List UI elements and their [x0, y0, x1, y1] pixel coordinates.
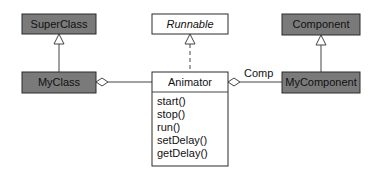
interface-name: Runnable: [166, 18, 213, 30]
class-animator[interactable]: Animator start() stop() run() setDelay()…: [152, 72, 228, 166]
class-name: SuperClass: [31, 18, 88, 30]
class-name: MyComponent: [285, 76, 357, 88]
class-superclass[interactable]: SuperClass: [22, 14, 96, 34]
association-label-comp: Comp: [244, 67, 273, 79]
uml-diagram: Comp SuperClass MyClass Runnable Animato…: [0, 0, 384, 171]
class-component[interactable]: Component: [282, 14, 360, 35]
class-name: Animator: [168, 76, 212, 88]
interface-runnable[interactable]: Runnable: [152, 14, 228, 34]
method-setdelay: setDelay(): [157, 134, 207, 146]
class-name: MyClass: [38, 76, 81, 88]
class-myclass[interactable]: MyClass: [22, 72, 96, 93]
generalization-arrow-superclass: [54, 34, 64, 44]
generalization-arrow-component: [316, 35, 326, 45]
method-getdelay: getDelay(): [157, 147, 208, 159]
class-mycomponent[interactable]: MyComponent: [282, 72, 360, 93]
aggregation-diamond-animator: [228, 78, 240, 86]
aggregation-diamond-myclass: [96, 78, 108, 86]
realization-arrow-runnable: [185, 34, 195, 44]
class-name: Component: [293, 18, 350, 30]
method-run: run(): [157, 121, 180, 133]
method-stop: stop(): [157, 108, 185, 120]
method-start: start(): [157, 95, 186, 107]
